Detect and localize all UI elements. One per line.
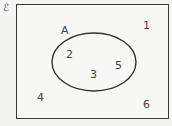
- set-a-ellipse: [52, 33, 136, 91]
- element-6: 6: [143, 99, 150, 110]
- element-5: 5: [115, 60, 122, 71]
- set-a-label: A: [61, 25, 69, 36]
- element-2: 2: [66, 49, 73, 60]
- element-3: 3: [90, 69, 97, 80]
- element-1: 1: [143, 20, 150, 31]
- element-4: 4: [37, 92, 44, 103]
